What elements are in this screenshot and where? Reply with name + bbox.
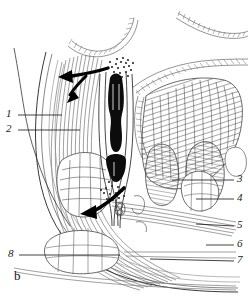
gland-lobe-mid-striated (146, 144, 179, 205)
label-5: 5 (237, 219, 243, 230)
label-4: 4 (237, 192, 243, 203)
epithelium-chain-top-left (68, 18, 138, 57)
label-7: 7 (237, 254, 243, 265)
label-8: 8 (8, 248, 14, 259)
epithelium-cells-top-right (178, 11, 245, 37)
connective-fiber-sheet-upper (112, 202, 236, 236)
gland-lobe-lower-left-acini (45, 231, 120, 274)
epithelium-cells-top-left (69, 18, 134, 55)
label-6: 6 (237, 238, 243, 249)
gland-lobe-left-acini (57, 153, 113, 218)
label-1: 1 (6, 108, 12, 119)
anatomical-figure: 1 2 3 4 5 6 7 8 b (0, 0, 248, 296)
gland-lobe-lower-acini (181, 171, 219, 211)
epithelium-chain-top-right (176, 13, 248, 38)
leader-7 (150, 259, 234, 261)
vessel-outlines (132, 196, 147, 232)
illustration-canvas (0, 0, 248, 296)
duct-lumen-dark-core (108, 74, 124, 153)
label-2: 2 (6, 123, 12, 134)
panel-letter-label: b (14, 268, 21, 284)
gland-acinus-top-right (225, 147, 246, 176)
label-3: 3 (237, 173, 243, 184)
